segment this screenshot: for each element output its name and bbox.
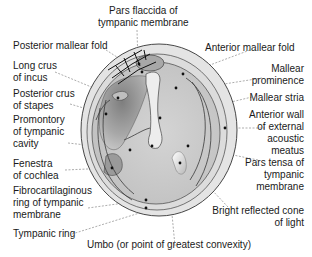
label-mallear-stria: Mallear stria	[250, 92, 304, 104]
label-anterior-wall-of-external-acoustic-meatus: Anterior wall of external acoustic meatu…	[249, 109, 304, 157]
label-tympanic-ring: Tympanic ring	[13, 228, 75, 240]
label-anterior-mallear-fold: Anterior mallear fold	[205, 42, 294, 54]
label-pars-tensa-of-tympanic-membrane: Pars tensa of tympanic membrane	[245, 157, 304, 193]
label-fenestra-of-cochlea: Fenestra of cochlea	[13, 158, 59, 182]
label-promontory-of-tympanic-cavity: Promontory of tympanic cavity	[13, 114, 65, 150]
tympanic-membrane-diagram: Pars flaccida of tympanic membrane Poste…	[0, 0, 312, 257]
label-pars-flaccida: Pars flaccida of tympanic membrane	[98, 5, 189, 29]
label-posterior-crus-of-stapes: Posterior crus of stapes	[13, 88, 75, 112]
label-bright-reflected-cone-of-light: Bright reflected cone of light	[212, 205, 304, 229]
label-posterior-mallear-fold: Posterior mallear fold	[13, 40, 107, 52]
label-mallear-prominence: Mallear prominence	[252, 63, 304, 87]
label-long-crus-of-incus: Long crus of incus	[13, 60, 57, 84]
label-fibrocartilaginous-ring: Fibrocartilaginous ring of tympanic memb…	[13, 185, 92, 221]
label-umbo: Umbo (or point of greatest convexity)	[87, 239, 251, 251]
